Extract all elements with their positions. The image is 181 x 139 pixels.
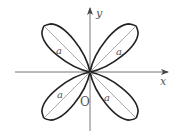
petal-label-upper-right: a: [116, 46, 122, 57]
petal-label-upper-left: a: [56, 45, 62, 56]
y-axis-label: y: [95, 7, 103, 20]
x-axis-label: x: [160, 75, 167, 88]
petal-label-lower-left: a: [57, 89, 63, 100]
rose-curve-diagram: y x O a a a a: [0, 0, 181, 139]
petal-label-lower-right: a: [104, 92, 110, 103]
petal-lower-right: [82, 64, 144, 126]
petal-upper-left: [36, 18, 98, 80]
origin-label: O: [80, 95, 90, 109]
petal-upper-right: [82, 18, 144, 80]
